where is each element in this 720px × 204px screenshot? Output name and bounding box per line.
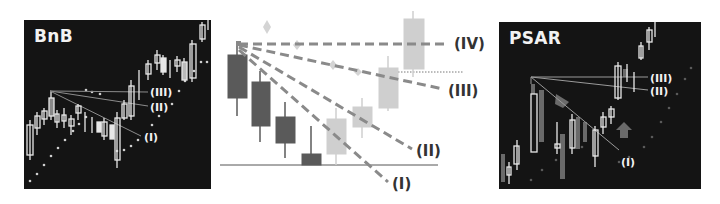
down-arrow-shape [555, 94, 569, 108]
bullish-candles [327, 11, 424, 165]
bnb-label-i: (I) [144, 131, 158, 144]
psar-label-iii: (III) [650, 72, 672, 85]
trendline-candlestick-diagram: (IV) (III) (II) (I) [215, 0, 500, 204]
bnb-title: BnB [34, 26, 73, 46]
psar-label-i: (I) [621, 156, 635, 169]
up-arrow-icon [616, 122, 632, 138]
bnb-label-iii: (III) [150, 86, 172, 99]
psar-label-ii: (II) [650, 85, 668, 98]
psar-dots [263, 20, 362, 76]
psar-title: PSAR [509, 28, 561, 48]
label-iv: (IV) [454, 35, 485, 53]
bearish-candles [228, 44, 321, 165]
psar-chart-panel: (III) (II) (I) PSAR [499, 22, 701, 189]
trendline-diagram: (IV) (III) (II) (I) [215, 0, 500, 204]
label-i: (I) [392, 175, 411, 193]
psar-trend-lines [531, 77, 648, 150]
bnb-chart-panel: (III) (II) (I) BnB [24, 20, 211, 189]
label-ii: (II) [416, 142, 441, 160]
label-iii: (III) [448, 82, 478, 100]
bnb-label-ii: (II) [150, 101, 168, 114]
